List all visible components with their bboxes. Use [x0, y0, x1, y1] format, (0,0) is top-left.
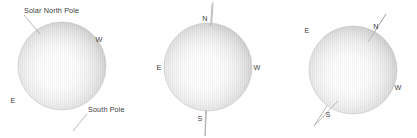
solar-north-pole-label: Solar North Pole — [24, 6, 79, 15]
west-label: W — [395, 83, 402, 92]
sun-texture-overlay — [309, 26, 397, 114]
north-label: N — [202, 14, 207, 23]
east-label: E — [305, 26, 310, 35]
solar-axis-diagram: Solar North Pole W E South Pole N E W S — [0, 0, 417, 138]
north-label: N — [373, 22, 378, 31]
east-label: E — [11, 96, 16, 105]
south-pole-label: South Pole — [88, 105, 125, 114]
west-label: W — [254, 63, 261, 72]
west-label: W — [96, 35, 103, 44]
sun-texture-overlay — [164, 23, 252, 111]
south-label: S — [198, 114, 203, 123]
sun-texture-overlay — [18, 22, 106, 110]
east-label: E — [157, 63, 162, 72]
south-label: S — [326, 110, 331, 119]
